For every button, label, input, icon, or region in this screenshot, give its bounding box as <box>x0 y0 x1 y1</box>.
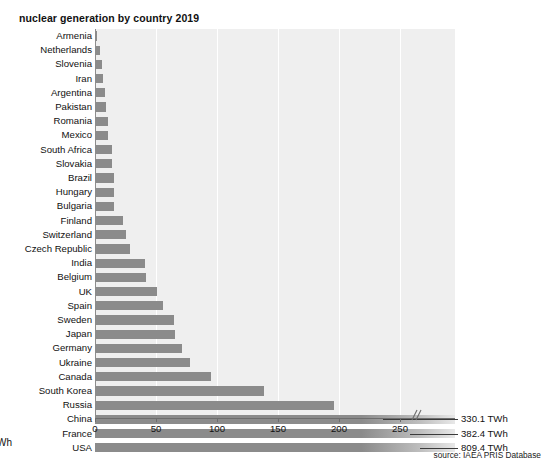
tick-mark-0 <box>95 418 96 422</box>
category-label-uk: UK <box>0 285 95 299</box>
bar-mexico <box>95 131 108 140</box>
category-label-hungary: Hungary <box>0 185 95 199</box>
tick-mark-200 <box>339 418 340 422</box>
category-label-argentina: Argentina <box>0 86 95 100</box>
bar-finland <box>95 216 123 225</box>
tick-label-250: 250 <box>392 423 408 434</box>
axis-break-icon <box>409 409 425 421</box>
category-label-slovenia: Slovenia <box>0 57 95 71</box>
category-label-armenia: Armenia <box>0 29 95 43</box>
category-label-south-africa: South Africa <box>0 143 95 157</box>
category-label-pakistan: Pakistan <box>0 100 95 114</box>
bar-sweden <box>95 315 174 324</box>
bar-ukraine <box>95 358 190 367</box>
tick-label-50: 50 <box>151 423 162 434</box>
category-label-china: China <box>0 412 95 426</box>
bar-japan <box>95 330 175 339</box>
tick-mark-250 <box>400 418 401 422</box>
category-label-spain: Spain <box>0 299 95 313</box>
category-label-brazil: Brazil <box>0 171 95 185</box>
category-label-ukraine: Ukraine <box>0 356 95 370</box>
x-axis-line <box>95 418 455 419</box>
bar-south-korea <box>95 386 264 395</box>
bar-slovenia <box>95 60 102 69</box>
bar-spain <box>95 301 163 310</box>
category-label-canada: Canada <box>0 370 95 384</box>
tick-mark-50 <box>156 418 157 422</box>
category-label-japan: Japan <box>0 327 95 341</box>
bar-argentina <box>95 88 105 97</box>
category-label-bulgaria: Bulgaria <box>0 199 95 213</box>
bar-slovakia <box>95 159 112 168</box>
category-label-india: India <box>0 256 95 270</box>
bar-romania <box>95 117 108 126</box>
nuclear-generation-bar-chart: nuclear generation by country 2019 Armen… <box>0 0 553 472</box>
tick-mark-100 <box>217 418 218 422</box>
category-label-belgium: Belgium <box>0 270 95 284</box>
bar-russia <box>95 401 334 410</box>
category-label-netherlands: Netherlands <box>0 43 95 57</box>
category-label-romania: Romania <box>0 114 95 128</box>
tick-mark-150 <box>278 418 279 422</box>
bar-india <box>95 259 145 268</box>
bar-hungary <box>95 188 114 197</box>
bar-iran <box>95 74 103 83</box>
category-label-slovakia: Slovakia <box>0 157 95 171</box>
tick-label-150: 150 <box>270 423 286 434</box>
callout-leader-france <box>410 434 458 435</box>
category-label-south-korea: South Korea <box>0 384 95 398</box>
bar-czech-republic <box>95 244 130 253</box>
bar-uk <box>95 287 157 296</box>
callout-value-china: 330.1 TWh <box>461 413 508 424</box>
bar-germany <box>95 344 182 353</box>
category-label-czech-republic: Czech Republic <box>0 242 95 256</box>
category-label-finland: Finland <box>0 214 95 228</box>
bar-south-africa <box>95 145 112 154</box>
bar-bulgaria <box>95 202 114 211</box>
bar-switzerland <box>95 230 126 239</box>
category-label-sweden: Sweden <box>0 313 95 327</box>
category-label-mexico: Mexico <box>0 128 95 142</box>
category-label-germany: Germany <box>0 341 95 355</box>
bar-pakistan <box>95 102 106 111</box>
x-axis-title: TWh <box>0 437 553 448</box>
x-axis-title-text: TWh <box>0 437 12 448</box>
tick-label-100: 100 <box>209 423 225 434</box>
bar-canada <box>95 372 211 381</box>
chart-title: nuclear generation by country 2019 <box>19 12 199 24</box>
category-label-switzerland: Switzerland <box>0 228 95 242</box>
category-label-russia: Russia <box>0 398 95 412</box>
source-note: source: IAEA PRIS Database <box>434 450 541 460</box>
tick-label-0: 0 <box>92 423 97 434</box>
tick-label-200: 200 <box>331 423 347 434</box>
bar-netherlands <box>95 46 100 55</box>
bar-brazil <box>95 173 114 182</box>
bar-belgium <box>95 273 146 282</box>
bar-armenia <box>95 31 97 40</box>
category-label-iran: Iran <box>0 72 95 86</box>
